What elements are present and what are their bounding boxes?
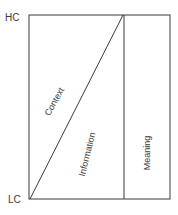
information-label: Information xyxy=(77,131,98,177)
context-diagonal xyxy=(30,15,123,199)
context-label: Context xyxy=(42,85,66,117)
lc-label: LC xyxy=(8,194,21,205)
context-information-meaning-diagram: HC LC Context Information Meaning xyxy=(0,0,178,215)
meaning-label: Meaning xyxy=(142,136,152,171)
hc-label: HC xyxy=(5,12,19,23)
